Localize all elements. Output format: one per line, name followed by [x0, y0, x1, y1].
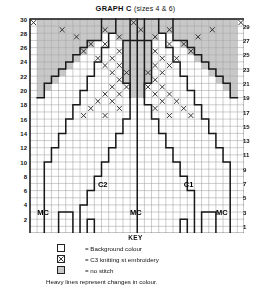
key-label-background: = Background colour: [85, 245, 142, 252]
key-item-no-stitch: = no stitch: [0, 266, 271, 274]
region-label-mc-2: MC: [37, 209, 49, 217]
key-label-no-stitch: = no stitch: [85, 267, 113, 274]
key-item-embroidery: = C3 knitting st embroidery: [0, 255, 271, 263]
chart-container: 30282624222018161412108642 2927252321191…: [0, 16, 271, 236]
region-label-c1-1: C1: [184, 181, 194, 189]
key-note: Heavy lines represent changes in colour.: [0, 278, 271, 285]
page-title: GRAPH C (sizes 4 & 6): [0, 4, 271, 13]
key-title: KEY: [0, 234, 271, 241]
region-label-mc-4: MC: [216, 209, 228, 217]
title-main: GRAPH C: [96, 4, 132, 13]
c3-embroidery-swatch: [57, 255, 65, 263]
key-label-embroidery: = C3 knitting st embroidery: [85, 256, 159, 263]
region-label-mc-3: MC: [130, 209, 142, 217]
key-item-background: = Background colour: [0, 244, 271, 252]
background-colour-swatch: [57, 244, 65, 252]
knitting-grid: [29, 18, 244, 233]
title-sizes: (sizes 4 & 6): [134, 5, 176, 12]
key-legend: KEY = Background colour = C3 knitting st…: [0, 234, 271, 285]
region-label-c2-0: C2: [98, 181, 108, 189]
grid-canvas: [29, 18, 244, 233]
no-stitch-swatch: [57, 266, 65, 274]
